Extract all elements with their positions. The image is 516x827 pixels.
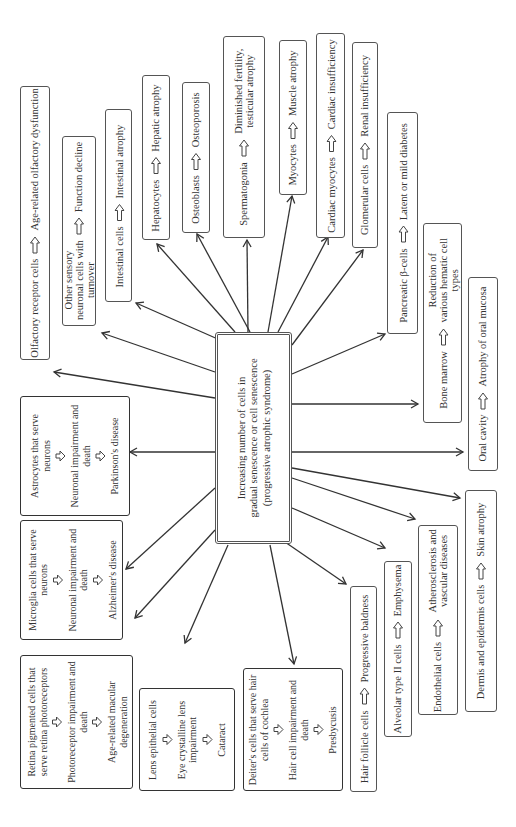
outcome-label: Hepatic atrophy <box>150 84 162 151</box>
outcome-label: Skin atrophy <box>475 503 487 557</box>
hollow-down-arrow-icon <box>202 734 213 746</box>
hollow-down-arrow-icon <box>91 716 102 728</box>
box-astrocytes: Astrocytes that serve neurons Neuronal i… <box>20 396 130 516</box>
center-box: Increasing number of cells in gradual se… <box>215 332 292 544</box>
step-label: Parkinson's disease <box>109 417 121 494</box>
hollow-arrow-icon <box>74 217 84 235</box>
hollow-arrow-icon <box>398 225 408 243</box>
outcome-label: Renal insufficiency <box>359 55 371 137</box>
hollow-down-arrow-icon <box>162 734 173 746</box>
cell-label: Bone marrow <box>437 351 449 408</box>
hollow-down-arrow-icon <box>51 716 62 728</box>
step-label: Age-related macular degeneration <box>105 657 128 787</box>
cell-label: Spermatogonia <box>238 162 250 226</box>
outcome-label: Cardiac insufficiency <box>325 39 337 129</box>
hollow-arrow-icon <box>476 562 486 580</box>
hollow-down-arrow-icon <box>55 450 66 462</box>
box-sensory: Other sensory neuronal cells with turnov… <box>62 136 96 326</box>
step-label: Neuronal impairment and death <box>66 522 89 638</box>
hollow-arrow-icon <box>30 236 40 254</box>
box-olfactory: Olfactory receptor cells Age-related olf… <box>20 86 50 360</box>
cell-label: Dermis and epidermis cells <box>475 585 487 700</box>
cell-label: Myocytes <box>287 144 299 185</box>
box-cardiac: Cardiac myocytes Cardiac insufficiency <box>316 33 345 238</box>
hollow-arrow-icon <box>360 142 370 160</box>
hollow-arrow-icon <box>239 139 249 157</box>
hollow-down-arrow-icon <box>52 574 63 586</box>
step-label: Cataract <box>216 723 228 756</box>
cell-label: Hair follicle cells <box>358 710 370 783</box>
hollow-arrow-icon <box>478 392 488 410</box>
outcome-label: Reduction of various hematic cell types <box>426 237 459 323</box>
outcome-label: Osteoporosis <box>190 92 202 147</box>
cell-label: Olfactory receptor cells <box>29 259 41 358</box>
box-bone-marrow: Bone marrow Reduction of various hematic… <box>423 223 462 423</box>
box-osteoblasts: Osteoblasts Osteoporosis <box>182 82 210 233</box>
box-dermis: Dermis and epidermis cells Skin atrophy <box>465 490 497 712</box>
outcome-label: Intestinal atrophy <box>113 124 125 198</box>
box-hair-follicle: Hair follicle cells Progressive baldness <box>350 586 377 792</box>
box-hepatocytes: Hepatocytes Hepatic atrophy <box>142 75 170 240</box>
box-retina: Retina pigmented cells that serve retina… <box>20 655 133 789</box>
cell-label: Intestinal cells <box>113 226 125 287</box>
step-label: Eye crystalline lens impairment <box>176 690 199 789</box>
step-label: Alzheimer's disease <box>106 540 118 619</box>
box-endothelial: Endothelial cells Atherosclerosis and va… <box>418 525 458 715</box>
center-line-1: Increasing number of cells in <box>235 377 248 499</box>
outcome-label: Function decline <box>73 142 85 212</box>
center-line-3: (progressive atrophic syndrome) <box>260 370 273 506</box>
hollow-arrow-icon <box>151 156 161 174</box>
hollow-down-arrow-icon <box>95 450 106 462</box>
outcome-label: Atrophy of oral mucosa <box>477 287 489 387</box>
cell-label: Other sensory neuronal cells with turnov… <box>63 240 96 320</box>
step-label: Photoreceptor impairment and death <box>65 657 88 787</box>
step-label: Hair cell impairment and death <box>287 670 310 789</box>
hollow-arrow-icon <box>288 121 298 139</box>
box-oral-cavity: Oral cavity Atrophy of oral mucosa <box>468 277 498 471</box>
hollow-arrow-icon <box>114 203 124 221</box>
outcome-label: Progressive baldness <box>358 595 370 683</box>
box-spermatogonia: Spermatogonia Diminished fertility, test… <box>223 36 265 238</box>
step-label: Lens epithelial cells <box>147 700 159 780</box>
step-label: Retina pigmented cells that serve retina… <box>25 657 48 787</box>
cell-label: Alveolar type II cells <box>392 645 404 734</box>
outcome-label: Atherosclerosis and vascular diseases <box>427 528 449 614</box>
box-deiters: Deiter's cells that serve hair cells of … <box>243 668 343 791</box>
cell-label: Glomerular cells <box>359 165 371 235</box>
hollow-arrow-icon <box>393 622 403 640</box>
hollow-arrow-icon <box>191 152 201 170</box>
box-alveolar: Alveolar type II cells Emphysema <box>384 561 412 737</box>
step-label: Presbycusis <box>327 706 339 753</box>
cell-label: Pancreatic β-cells <box>397 248 409 322</box>
box-pancreatic: Pancreatic β-cells Latent or mild diabet… <box>387 112 418 334</box>
outcome-label: Diminished fertility, testicular atrophy <box>233 48 255 134</box>
box-glomerular: Glomerular cells Renal insufficiency <box>352 42 378 248</box>
cell-label: Endothelial cells <box>432 642 444 712</box>
box-microglia: Microglia cells that serve neurons Neuro… <box>20 520 123 640</box>
cell-label: Osteoblasts <box>190 175 202 223</box>
hollow-arrow-icon <box>359 687 369 705</box>
step-label: Astrocytes that serve neurons <box>29 398 52 514</box>
hollow-arrow-icon <box>438 328 448 346</box>
cell-label: Hepatocytes <box>150 179 162 231</box>
hollow-down-arrow-icon <box>92 574 103 586</box>
box-lens: Lens epithelial cells Eye crystalline le… <box>139 688 235 791</box>
step-label: Microglia cells that serve neurons <box>26 522 49 638</box>
step-label: Deiter's cells that serve hair cells of … <box>247 670 270 789</box>
outcome-label: Age-related olfactory dysfunction <box>29 88 41 230</box>
hollow-arrow-icon <box>433 619 443 637</box>
box-intestinal: Intestinal cells Intestinal atrophy <box>105 109 132 302</box>
cell-label: Cardiac myocytes <box>325 157 337 233</box>
box-myocytes: Myocytes Muscle atrophy <box>279 40 307 195</box>
hollow-down-arrow-icon <box>273 724 284 736</box>
senescence-diagram: Increasing number of cells in gradual se… <box>0 0 516 827</box>
hollow-arrow-icon <box>326 134 336 152</box>
center-line-2: gradual senescence or cell senescence <box>247 358 260 517</box>
outcome-label: Latent or mild diabetes <box>397 123 409 220</box>
outcome-label: Emphysema <box>392 565 404 617</box>
hollow-down-arrow-icon <box>313 724 324 736</box>
step-label: Neuronal impairment and death <box>69 398 92 514</box>
cell-label: Oral cavity <box>477 415 489 462</box>
outcome-label: Muscle atrophy <box>287 50 299 116</box>
